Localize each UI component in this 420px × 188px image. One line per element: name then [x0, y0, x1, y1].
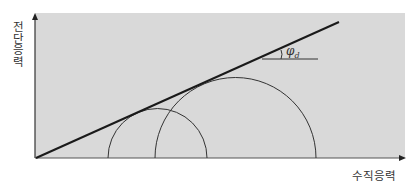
plot-background	[35, 13, 405, 158]
angle-label: φd	[286, 44, 300, 60]
mohr-circle-diagram	[0, 0, 420, 188]
angle-subscript: d	[294, 51, 299, 60]
y-axis-label: 전단응력	[11, 22, 25, 68]
x-axis-label: 수직응력	[352, 167, 396, 183]
